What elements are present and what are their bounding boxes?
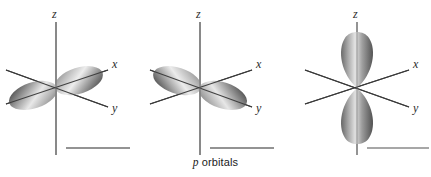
- p-x-orbital-panel: z x y: [0, 0, 144, 160]
- y-axis-label: y: [111, 101, 118, 115]
- x-axis-label: x: [255, 57, 262, 71]
- orbital-lobe-positive: [51, 60, 107, 100]
- x-axis-label: x: [111, 57, 118, 71]
- z-axis-label: z: [51, 7, 57, 21]
- caption-orbital-text: orbitals: [199, 156, 238, 168]
- y-axis-label: y: [255, 101, 262, 115]
- orbital-lobe-negative: [195, 75, 251, 115]
- z-axis-label: z: [352, 7, 358, 21]
- p-y-orbital-panel: z x y: [143, 0, 287, 160]
- z-axis-label: z: [195, 7, 201, 21]
- p-z-orbital-panel: z x y: [287, 0, 431, 160]
- x-axis-label: x: [412, 57, 419, 71]
- p-orbitals-figure: z x y: [0, 0, 431, 177]
- figure-caption: p orbitals: [0, 156, 431, 168]
- y-axis-label: y: [412, 101, 419, 115]
